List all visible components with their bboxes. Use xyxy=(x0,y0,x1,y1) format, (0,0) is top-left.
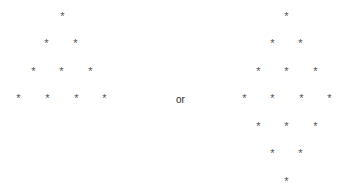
ascii-row: ** xyxy=(0,148,347,158)
asterisk-glyph: * xyxy=(298,93,305,103)
asterisk-glyph: * xyxy=(269,148,276,158)
figure-right-diamond: **************** xyxy=(0,0,347,195)
ascii-row: *** xyxy=(0,66,347,76)
asterisk-glyph: * xyxy=(312,121,319,131)
ascii-row: * xyxy=(0,176,347,186)
ascii-row: ** xyxy=(0,38,347,48)
asterisk-glyph: * xyxy=(255,121,262,131)
asterisk-glyph: * xyxy=(269,38,276,48)
ascii-row: **** xyxy=(0,93,347,103)
asterisk-glyph: * xyxy=(283,66,290,76)
asterisk-glyph: * xyxy=(312,66,319,76)
asterisk-glyph: * xyxy=(283,11,290,21)
ascii-row: * xyxy=(0,11,347,21)
asterisk-glyph: * xyxy=(255,66,262,76)
asterisk-glyph: * xyxy=(283,121,290,131)
asterisk-glyph: * xyxy=(297,148,304,158)
ascii-art-canvas: ********** or **************** xyxy=(0,0,347,195)
asterisk-glyph: * xyxy=(283,176,290,186)
ascii-row: *** xyxy=(0,121,347,131)
asterisk-glyph: * xyxy=(326,93,333,103)
asterisk-glyph: * xyxy=(297,38,304,48)
asterisk-glyph: * xyxy=(241,93,248,103)
asterisk-glyph: * xyxy=(269,93,276,103)
